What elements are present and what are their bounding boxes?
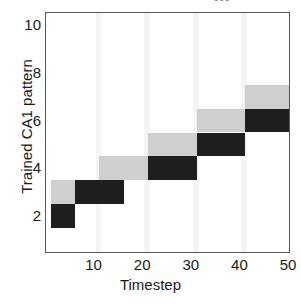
heatmap-cell-light [148, 133, 172, 157]
heatmap-cell-dark [148, 156, 172, 180]
cropped-title-fragment: ••• [214, 0, 231, 2]
heatmap-cell-dark [75, 180, 99, 204]
background-band [96, 13, 102, 252]
x-axis-label: Timestep [0, 276, 301, 293]
heatmap-cell-light [270, 85, 289, 109]
x-tick-label: 50 [268, 256, 301, 273]
x-tick-label: 30 [171, 256, 211, 273]
y-axis-label: Trained CA1 pattern [18, 32, 35, 222]
heatmap-cell-dark [245, 109, 269, 133]
heatmap-cell-dark [221, 133, 245, 157]
heatmap-cell-dark [197, 133, 221, 157]
heatmap-cell-dark [51, 204, 75, 228]
heatmap-plot-area [45, 12, 290, 253]
heatmap-cell-light [172, 133, 196, 157]
x-tick-label: 40 [219, 256, 259, 273]
heatmap-cell-light [245, 85, 269, 109]
figure: ••• 246810 1020304050 Timestep Trained C… [0, 0, 301, 304]
heatmap-cell-dark [172, 156, 196, 180]
x-tick-label: 10 [74, 256, 114, 273]
y-tick-label: 10 [0, 16, 41, 33]
heatmap-cell-dark [270, 109, 289, 133]
heatmap-cell-dark [99, 180, 123, 204]
heatmap-cell-light [51, 180, 75, 204]
heatmap-cell-light [221, 109, 245, 133]
heatmap-cell-light [99, 156, 123, 180]
heatmap-cell-light [124, 156, 148, 180]
x-tick-label: 20 [122, 256, 162, 273]
heatmap-cell-light [197, 109, 221, 133]
